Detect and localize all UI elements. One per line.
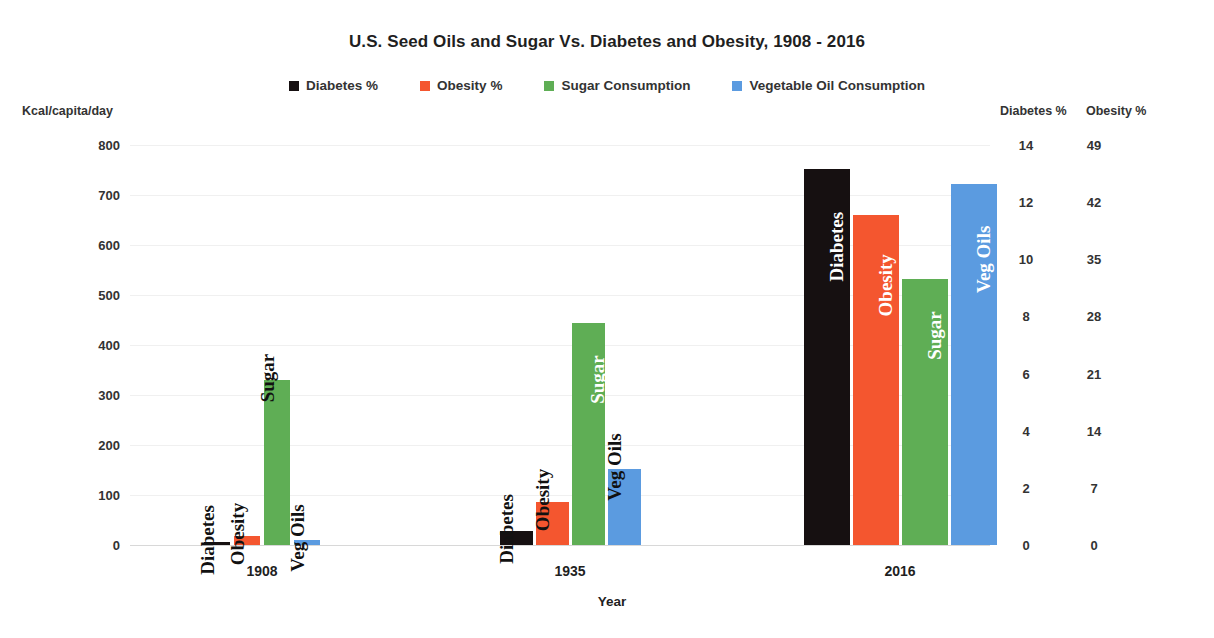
bar-column: Veg Oils	[951, 145, 997, 545]
bar-label: Obesity	[876, 254, 895, 316]
y-tick-label: 200	[44, 438, 120, 453]
bar-1935-vegetable-oil-consumption[interactable]: Veg Oils	[608, 469, 641, 545]
bar-column: Diabetes	[204, 145, 230, 545]
bar-column: Diabetes	[500, 145, 533, 545]
y-tick-label: 400	[44, 338, 120, 353]
right-tick-label-diabetes: 2	[1000, 480, 1052, 495]
right-tick-label-obesity: 42	[1068, 195, 1120, 210]
legend-item-vegetable-oil[interactable]: Vegetable Oil Consumption	[732, 78, 925, 93]
bar-label: Veg Oils	[605, 433, 624, 500]
y-tick-label: 500	[44, 288, 120, 303]
legend-item-label: Sugar Consumption	[561, 78, 690, 93]
bar-2016-diabetes[interactable]: Diabetes	[804, 169, 850, 545]
bar-column: Sugar	[264, 145, 290, 545]
legend-item-label: Obesity %	[437, 78, 502, 93]
legend-swatch-icon	[732, 81, 742, 91]
bar-1935-obesity[interactable]: Obesity	[536, 502, 569, 545]
chart-legend: Diabetes % Obesity % Sugar Consumption V…	[0, 78, 1214, 93]
x-axis-title-label: Year	[598, 594, 627, 609]
gridline	[130, 545, 990, 546]
bar-2016-obesity[interactable]: Obesity	[853, 215, 899, 545]
bar-label: Sugar	[258, 354, 277, 403]
bar-label: Diabetes	[827, 212, 846, 282]
right-tick-label-obesity: 0	[1068, 538, 1120, 553]
y-tick-label: 600	[44, 238, 120, 253]
bar-column: Obesity	[234, 145, 260, 545]
bar-column: Diabetes	[804, 145, 850, 545]
right-axis-header-diabetes: Diabetes %	[1000, 104, 1086, 118]
right-tick-label-obesity: 14	[1068, 423, 1120, 438]
right-axis-headers: Diabetes % Obesity %	[1000, 104, 1200, 118]
bar-label: Obesity	[228, 503, 247, 565]
bar-label: Veg Oils	[288, 504, 307, 571]
bar-column: Sugar	[572, 145, 605, 545]
x-tick-label: 1908	[246, 563, 277, 579]
bar-column: Veg Oils	[294, 145, 320, 545]
bar-2016-sugar-consumption[interactable]: Sugar	[902, 279, 948, 546]
plot-area: DiabetesObesitySugarVeg OilsDiabetesObes…	[130, 145, 990, 545]
bar-2016-vegetable-oil-consumption[interactable]: Veg Oils	[951, 184, 997, 546]
y-axis-title: Kcal/capita/day	[22, 104, 113, 118]
right-tick-label-diabetes: 8	[1000, 309, 1052, 324]
legend-item-sugar[interactable]: Sugar Consumption	[544, 78, 690, 93]
bar-column: Veg Oils	[608, 145, 641, 545]
legend-swatch-icon	[544, 81, 554, 91]
bar-label: Obesity	[533, 469, 552, 531]
right-tick-label-obesity: 35	[1068, 252, 1120, 267]
right-tick-label-obesity: 49	[1068, 138, 1120, 153]
right-tick-label-diabetes: 0	[1000, 538, 1052, 553]
right-axis-header-obesity: Obesity %	[1086, 104, 1172, 118]
y-tick-label: 700	[44, 188, 120, 203]
bar-label: Veg Oils	[974, 225, 993, 292]
bar-column: Obesity	[853, 145, 899, 545]
bar-column: Sugar	[902, 145, 948, 545]
right-tick-label-diabetes: 4	[1000, 423, 1052, 438]
legend-swatch-icon	[289, 81, 299, 91]
legend-item-label: Vegetable Oil Consumption	[749, 78, 925, 93]
bar-1908-vegetable-oil-consumption[interactable]: Veg Oils	[294, 540, 320, 546]
bar-label: Sugar	[588, 355, 607, 404]
legend-item-diabetes[interactable]: Diabetes %	[289, 78, 378, 93]
x-tick-label: 2016	[884, 563, 915, 579]
legend-item-label: Diabetes %	[306, 78, 378, 93]
right-tick-label-diabetes: 10	[1000, 252, 1052, 267]
right-tick-label-obesity: 7	[1068, 480, 1120, 495]
right-tick-label-obesity: 21	[1068, 366, 1120, 381]
bar-column: Obesity	[536, 145, 569, 545]
legend-swatch-icon	[420, 81, 430, 91]
right-tick-label-obesity: 28	[1068, 309, 1120, 324]
bar-1935-sugar-consumption[interactable]: Sugar	[572, 323, 605, 546]
legend-item-obesity[interactable]: Obesity %	[420, 78, 502, 93]
y-tick-label: 100	[44, 488, 120, 503]
bar-label: Sugar	[925, 311, 944, 360]
y-tick-label: 800	[44, 138, 120, 153]
right-tick-label-diabetes: 6	[1000, 366, 1052, 381]
bar-group-1935: DiabetesObesitySugarVeg Oils	[500, 145, 641, 545]
bar-1908-obesity[interactable]: Obesity	[234, 536, 260, 545]
bar-1935-diabetes[interactable]: Diabetes	[500, 531, 533, 545]
y-tick-label: 300	[44, 388, 120, 403]
bar-group-2016: DiabetesObesitySugarVeg Oils	[804, 145, 997, 545]
bar-label: Diabetes	[497, 494, 516, 564]
page-title: U.S. Seed Oils and Sugar Vs. Diabetes an…	[0, 32, 1214, 52]
right-tick-label-diabetes: 12	[1000, 195, 1052, 210]
x-axis-title: Year	[0, 594, 1214, 609]
bar-group-1908: DiabetesObesitySugarVeg Oils	[204, 145, 320, 545]
x-tick-label: 1935	[554, 563, 585, 579]
right-tick-label-diabetes: 14	[1000, 138, 1052, 153]
y-tick-label: 0	[44, 538, 120, 553]
bar-label: Diabetes	[198, 505, 217, 575]
